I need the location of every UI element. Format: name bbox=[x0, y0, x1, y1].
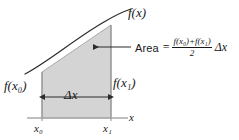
x-axis-label-text: x bbox=[129, 111, 134, 123]
area-fraction: f(x₀)+f(x₁) 2 bbox=[172, 37, 211, 58]
shaded-trapezoid-region bbox=[42, 25, 111, 118]
tick-label-x1-text: x₁ bbox=[103, 122, 112, 134]
tick-label-x1: x₁ bbox=[103, 123, 112, 134]
formula-delta-x: Δx bbox=[215, 40, 227, 55]
figure-canvas bbox=[0, 0, 239, 140]
delta-x-label-text: Δx bbox=[64, 87, 77, 102]
left-height-label-text: f(x₀) bbox=[4, 78, 27, 93]
x-axis-label: x bbox=[129, 112, 134, 123]
area-formula-annotation: Area = f(x₀)+f(x₁) 2 Δx bbox=[135, 37, 227, 58]
function-label-text: f(x) bbox=[128, 5, 146, 20]
right-height-label-text: f(x₁) bbox=[113, 75, 136, 90]
tick-label-x0-text: x₀ bbox=[34, 122, 43, 134]
fraction-denominator: 2 bbox=[189, 48, 196, 58]
left-height-label: f(x₀) bbox=[4, 79, 27, 92]
delta-x-label: Δx bbox=[64, 88, 77, 101]
area-word-label: Area bbox=[135, 42, 159, 54]
function-label: f(x) bbox=[128, 6, 146, 19]
trapezoid-rule-figure: f(x) f(x₀) f(x₁) Δx x x₀ x₁ Area = f(x₀)… bbox=[0, 0, 239, 140]
right-height-label: f(x₁) bbox=[113, 76, 136, 89]
fraction-numerator: f(x₀)+f(x₁) bbox=[172, 37, 211, 47]
equals-sign: = bbox=[163, 40, 170, 55]
tick-label-x0: x₀ bbox=[34, 123, 43, 134]
